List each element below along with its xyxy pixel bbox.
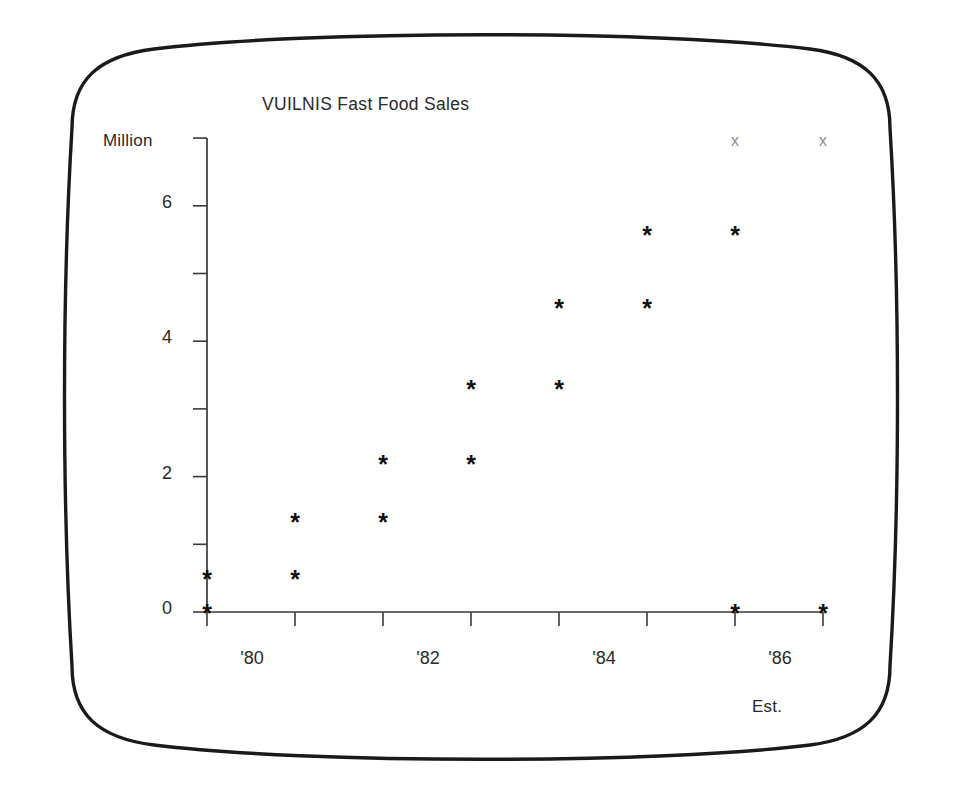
estimated-markers: x x — [731, 132, 827, 149]
data-point: * — [466, 450, 476, 478]
y-axis-ticks — [193, 138, 207, 612]
data-point: * — [290, 508, 300, 536]
chart-screenshot: * * * * * * * * * * * * * * * x — [0, 0, 959, 795]
y-tick-label-6: 6 — [132, 192, 172, 213]
chart-title: VUILNIS Fast Food Sales — [262, 96, 469, 114]
data-point: * — [818, 599, 828, 627]
data-point: * — [378, 508, 388, 536]
estimate-point: x — [731, 132, 739, 149]
data-point: * — [642, 221, 652, 249]
x-tick-label-84: '84 — [574, 648, 634, 669]
plot-area: * * * * * * * * * * * * * * * x — [0, 0, 959, 795]
data-point: * — [554, 375, 564, 403]
data-point: * — [642, 294, 652, 322]
y-axis-unit-label: Million — [103, 132, 153, 149]
data-point: * — [202, 565, 212, 593]
data-point: * — [730, 221, 740, 249]
y-tick-label-2: 2 — [132, 463, 172, 484]
series-a-markers: * * * * * * — [202, 221, 652, 627]
x-tick-label-80: '80 — [222, 648, 282, 669]
series-b-markers: * * * * * * * * * — [202, 221, 828, 627]
data-point: * — [730, 599, 740, 627]
x-tick-label-82: '82 — [398, 648, 458, 669]
estimate-note-label: Est. — [752, 698, 782, 715]
data-point: * — [290, 565, 300, 593]
x-tick-label-86: '86 — [750, 648, 810, 669]
data-point: * — [378, 450, 388, 478]
y-tick-label-4: 4 — [132, 327, 172, 348]
data-point: * — [554, 294, 564, 322]
data-point: * — [466, 375, 476, 403]
y-tick-label-0: 0 — [132, 598, 172, 619]
data-point: * — [202, 599, 212, 627]
estimate-point: x — [819, 132, 827, 149]
